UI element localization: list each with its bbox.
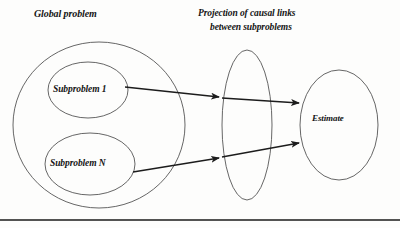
projection-title-line-2: between subproblems — [210, 22, 292, 32]
projection-ellipse[interactable] — [222, 50, 272, 200]
arrow-subproblem-1-to-projection — [125, 87, 219, 97]
arrow-projection-to-estimate-lower — [222, 143, 299, 157]
projection-title-line-1: Projection of causal links — [198, 8, 295, 18]
diagram-canvas: Global problem Projection of causal link… — [0, 0, 400, 228]
global-problem-ellipse — [13, 42, 185, 208]
global-problem-label: Global problem — [34, 8, 97, 19]
subproblem-n-label: Subproblem N — [50, 158, 106, 168]
estimate-ellipse[interactable] — [300, 70, 378, 180]
arrow-subproblem-n-to-projection — [133, 158, 219, 172]
estimate-label: Estimate — [312, 113, 344, 123]
subproblem-1-label: Subproblem 1 — [53, 84, 106, 94]
arrow-projection-to-estimate-upper — [222, 98, 299, 103]
